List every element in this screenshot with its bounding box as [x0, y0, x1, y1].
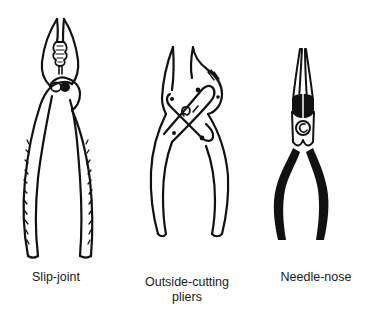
- slip-joint-label: Slip-joint: [14, 270, 98, 285]
- outside-cutting-pliers-icon: [151, 47, 228, 236]
- needle-nose-label: Needle-nose: [268, 270, 364, 285]
- outside-cutting-label: Outside-cutting pliers: [127, 275, 247, 305]
- slip-joint-pliers-icon: [24, 19, 93, 258]
- pliers-illustration: Slip-joint Outside-cutting pliers Needle…: [0, 0, 380, 317]
- needle-nose-pliers-icon: [274, 49, 329, 240]
- outside-cutting-label-line1: Outside-cutting: [127, 275, 247, 290]
- outside-cutting-label-line2: pliers: [127, 290, 247, 305]
